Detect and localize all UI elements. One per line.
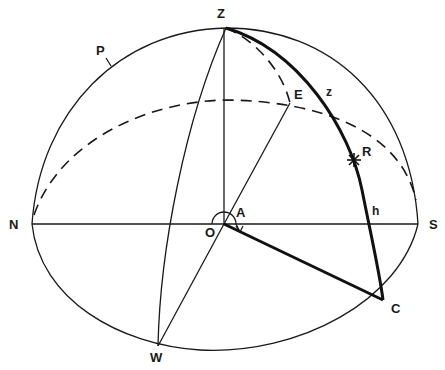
vertical-circle-arc: [226, 28, 383, 300]
label-north: N: [9, 217, 18, 232]
label-azimuth: A: [236, 205, 246, 220]
meridian-outline-arc: [32, 28, 418, 224]
label-altitude: h: [372, 204, 379, 218]
horizon-front-arc: [32, 224, 418, 350]
celestial-sphere-diagram: Z P E z R N S O A h C W: [0, 0, 445, 370]
prime-vertical-dashed-arc: [226, 28, 290, 103]
observer-east-line: [224, 103, 290, 224]
zenith-west-arc: [158, 28, 226, 346]
label-west: W: [150, 350, 163, 365]
label-pole: P: [96, 43, 105, 58]
label-south: S: [429, 217, 438, 232]
horizon-back-dashed-arc: [34, 100, 416, 215]
observer-west-line: [158, 224, 224, 346]
label-observer: O: [205, 225, 215, 240]
label-star: R: [362, 144, 372, 159]
star-icon: [347, 153, 361, 167]
label-east: E: [294, 87, 303, 102]
label-zenith: Z: [217, 6, 225, 21]
label-zenith-distance: z: [326, 85, 332, 99]
observer-foot-line: [224, 224, 383, 300]
label-foot-point: C: [391, 301, 401, 316]
pole-tick-mark: [106, 58, 111, 66]
